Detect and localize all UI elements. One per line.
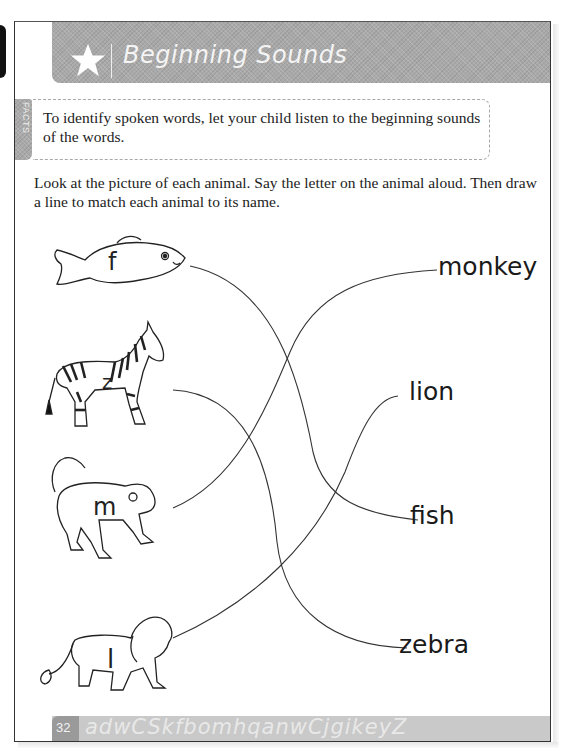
zebra-letter: z — [102, 370, 113, 394]
line-fish — [190, 266, 418, 520]
worksheet-page: Beginning Sounds FACTS To identify spoke… — [14, 21, 551, 742]
matching-artwork — [15, 22, 552, 743]
page-shadow-right — [553, 24, 559, 746]
word-zebra: zebra — [399, 630, 469, 659]
word-fish: fish — [410, 501, 455, 530]
line-monkey — [173, 270, 437, 508]
matching-lines — [173, 266, 437, 648]
fish-drawing — [55, 236, 185, 284]
line-lion — [173, 396, 398, 638]
monkey-letter: m — [93, 493, 116, 521]
fish-letter: f — [108, 248, 116, 276]
word-lion: lion — [409, 377, 454, 406]
line-zebra — [173, 390, 407, 648]
page-edge-tab — [0, 25, 6, 78]
word-monkey: monkey — [438, 252, 537, 281]
footer-decorative-letters: adwCSkfbomhqanwCjgikeyZ — [85, 715, 408, 739]
page-number: 32 — [56, 720, 70, 735]
lion-letter: l — [107, 644, 114, 674]
